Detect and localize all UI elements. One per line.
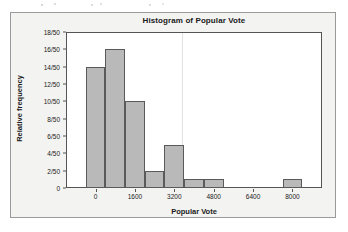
- histogram-bar: [145, 171, 165, 188]
- histogram-bar: [86, 67, 106, 188]
- x-axis-title: Popular Vote: [66, 207, 322, 216]
- histogram-bar: [283, 179, 303, 188]
- histogram-bars-layer: [0, 0, 348, 232]
- histogram-bar: [125, 101, 145, 188]
- histogram-bar: [204, 179, 224, 188]
- histogram-bar: [105, 49, 125, 188]
- histogram-bar: [184, 179, 204, 188]
- histogram-bar: [164, 145, 184, 188]
